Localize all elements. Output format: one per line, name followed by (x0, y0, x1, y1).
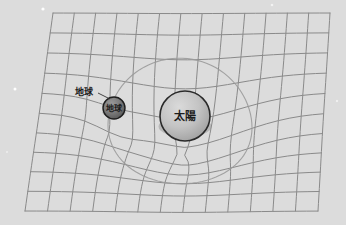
sun-label: 太陽 (173, 109, 196, 123)
spacetime-diagram-canvas: 太陽地球 地球 (0, 0, 346, 225)
earth-label: 地球 (106, 103, 123, 113)
earth-body: 地球 (102, 97, 125, 119)
sun-body: 太陽 (159, 91, 212, 141)
background-star-4 (6, 151, 8, 153)
grid-line-horizontal-0 (53, 13, 330, 14)
spacetime-scene-svg: 太陽地球 地球 (0, 0, 346, 225)
background-star-3 (336, 100, 338, 102)
background-star-1 (271, 4, 274, 7)
earth-callout-text: 地球 (75, 86, 94, 97)
background-star-0 (41, 7, 44, 10)
background-star-2 (14, 88, 17, 91)
